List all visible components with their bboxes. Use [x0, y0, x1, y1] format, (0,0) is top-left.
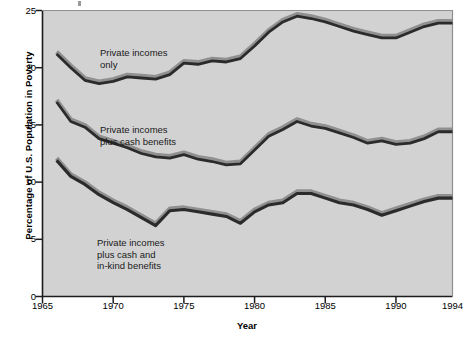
series-label-plus-cash: Private incomes plus cash benefits: [100, 124, 176, 147]
poverty-line-chart: Percentage of U.S. Population in Poverty…: [0, 0, 470, 337]
y-ticks: [36, 11, 43, 297]
series-label-plus-cash-inkind: Private incomes plus cash and in-kind be…: [97, 237, 165, 272]
series-label-private-only: Private incomes only: [100, 47, 168, 70]
plot-canvas: [0, 0, 470, 337]
x-ticks: [43, 297, 396, 304]
